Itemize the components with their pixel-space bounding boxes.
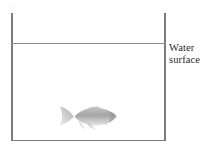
tank-wall-left (11, 13, 13, 141)
water-surface-line (11, 43, 166, 44)
tank-wall-right (164, 13, 166, 141)
tank-wall-bottom (11, 140, 166, 142)
water-surface-label-line-1: Water (169, 42, 213, 54)
water-surface-label-line-2: surface (169, 54, 213, 66)
goldfish-illustration (58, 100, 120, 134)
water-surface-label: Water surface (169, 42, 213, 66)
fish-tank-diagram: Water surface (0, 0, 213, 149)
